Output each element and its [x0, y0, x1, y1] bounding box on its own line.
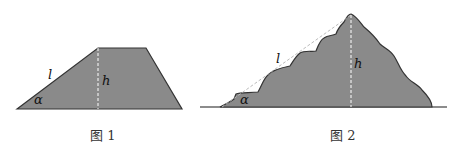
- figure-2-mountain: l h α: [200, 14, 447, 107]
- figure-2-caption: 图 2: [330, 125, 355, 144]
- height-label-1: h: [102, 73, 110, 88]
- figures-canvas: l h α l h α: [0, 0, 459, 152]
- height-label-2: h: [354, 56, 362, 71]
- angle-label-1: α: [34, 92, 43, 107]
- slope-label-1: l: [48, 67, 52, 82]
- figure-1-caption: 图 1: [90, 125, 115, 144]
- slope-label-2: l: [276, 51, 280, 66]
- figure-1-trapezoid: l h α: [17, 48, 182, 109]
- angle-label-2: α: [240, 92, 249, 107]
